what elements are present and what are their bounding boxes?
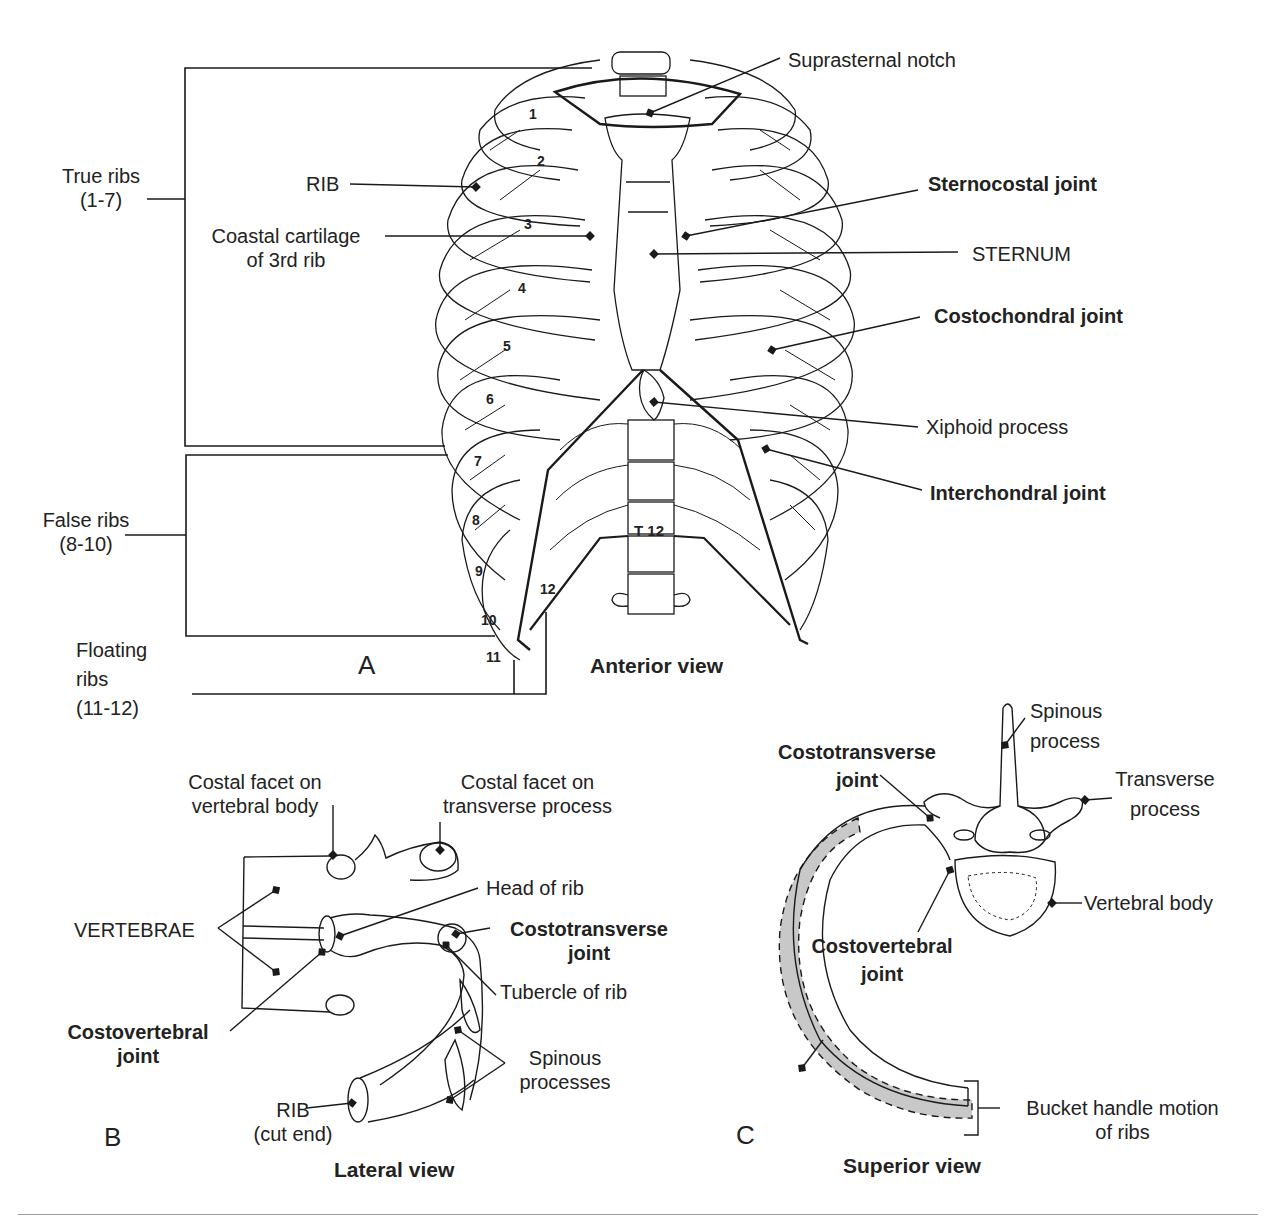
spinous-process-label: Spinous process — [1030, 696, 1102, 756]
coastal-cartilage-text: Coastal cartilage — [196, 224, 376, 248]
costovertebral-c-text-2: joint — [792, 960, 972, 988]
tubercle-of-rib-label: Tubercle of rib — [500, 980, 627, 1004]
floating-ribs-text: Floating — [76, 636, 147, 665]
xiphoid-process-label: Xiphoid process — [926, 415, 1068, 439]
rib-number-4: 4 — [518, 280, 526, 296]
rib-number-8: 8 — [472, 512, 480, 528]
bucket-handle-text: Bucket handle motion — [1005, 1096, 1240, 1120]
suprasternal-notch-label: Suprasternal notch — [788, 48, 956, 72]
costotransverse-joint-b-label: Costotransverse joint — [494, 917, 684, 965]
true-ribs-label: True ribs (1-7) — [56, 164, 146, 212]
costovertebral-joint-c-label: Costovertebral joint — [792, 932, 972, 988]
rib-cut-end-text-2: (cut end) — [238, 1122, 348, 1146]
costal-facet-body-text: Costal facet on — [170, 770, 340, 794]
rib-cut-end-label: RIB (cut end) — [238, 1098, 348, 1146]
rib-number-10: 10 — [481, 612, 497, 628]
rib-number-9: 9 — [475, 563, 483, 579]
rib-number-11: 11 — [486, 649, 501, 665]
costotransverse-b-text-2: joint — [494, 941, 684, 965]
true-ribs-range: (1-7) — [56, 188, 146, 212]
costotransverse-b-text: Costotransverse — [494, 917, 684, 941]
costovertebral-b-text-2: joint — [58, 1044, 218, 1068]
rib-label: RIB — [306, 172, 339, 196]
costochondral-joint-label: Costochondral joint — [934, 304, 1123, 328]
sternum-label: STERNUM — [972, 242, 1071, 266]
costovertebral-b-text: Costovertebral — [58, 1020, 218, 1044]
rib-number-12: 12 — [540, 581, 556, 597]
rib-group-brackets — [125, 68, 592, 694]
leader-lines-a — [350, 58, 958, 490]
superior-view-caption: Superior view — [843, 1154, 981, 1178]
costovertebral-joint-b-label: Costovertebral joint — [58, 1020, 218, 1068]
spinous-processes-label: Spinous processes — [500, 1046, 630, 1094]
costotransverse-c-text-2: joint — [762, 766, 952, 794]
panel-b-letter: B — [104, 1122, 121, 1153]
costovertebral-c-text: Costovertebral — [792, 932, 972, 960]
coastal-cartilage-text-2: of 3rd rib — [196, 248, 376, 272]
sternocostal-joint-label: Sternocostal joint — [928, 172, 1097, 196]
lateral-view-art — [242, 835, 482, 1122]
false-ribs-text: False ribs — [36, 508, 136, 532]
floating-ribs-range: (11-12) — [76, 694, 147, 723]
transverse-process-text: Transverse — [1100, 764, 1230, 794]
rib-number-7: 7 — [474, 453, 482, 469]
rib-number-3: 3 — [524, 216, 532, 232]
costal-facet-body-label: Costal facet on vertebral body — [170, 770, 340, 818]
panel-a-letter: A — [358, 650, 375, 681]
costal-facet-transverse-label: Costal facet on transverse process — [425, 770, 630, 818]
costal-facet-transverse-text-2: transverse process — [425, 794, 630, 818]
floating-ribs-label: Floating ribs (11-12) — [76, 636, 147, 723]
vertebral-body-label: Vertebral body — [1084, 891, 1213, 915]
coastal-cartilage-label: Coastal cartilage of 3rd rib — [196, 224, 376, 272]
panel-c-letter: C — [736, 1120, 755, 1151]
lateral-view-caption: Lateral view — [334, 1158, 454, 1182]
spinous-process-text-2: process — [1030, 726, 1102, 756]
bucket-handle-label: Bucket handle motion of ribs — [1005, 1096, 1240, 1144]
true-ribs-text: True ribs — [56, 164, 146, 188]
transverse-process-label: Transverse process — [1100, 764, 1230, 824]
anterior-view-caption: Anterior view — [590, 654, 723, 678]
rib-number-2: 2 — [537, 153, 545, 169]
false-ribs-range: (8-10) — [36, 532, 136, 556]
spinous-processes-text: Spinous — [500, 1046, 630, 1070]
rib-cage-anterior — [436, 52, 855, 660]
costotransverse-c-text: Costotransverse — [762, 738, 952, 766]
head-of-rib-label: Head of rib — [486, 876, 584, 900]
interchondral-joint-label: Interchondral joint — [930, 481, 1106, 505]
rib-number-5: 5 — [503, 338, 511, 354]
rib-number-6: 6 — [486, 391, 494, 407]
transverse-process-text-2: process — [1100, 794, 1230, 824]
rib-number-1: 1 — [529, 106, 537, 122]
costotransverse-joint-c-label: Costotransverse joint — [762, 738, 952, 794]
false-ribs-label: False ribs (8-10) — [36, 508, 136, 556]
vertebrae-label: VERTEBRAE — [74, 918, 195, 942]
spinous-processes-text-2: processes — [500, 1070, 630, 1094]
t12-vertebra-label: T 12 — [634, 522, 664, 539]
bottom-divider — [18, 1214, 1258, 1215]
bucket-handle-text-2: of ribs — [1005, 1120, 1240, 1144]
costal-facet-transverse-text: Costal facet on — [425, 770, 630, 794]
floating-ribs-text-2: ribs — [76, 665, 147, 694]
costal-facet-body-text-2: vertebral body — [170, 794, 340, 818]
spinous-process-text: Spinous — [1030, 696, 1102, 726]
rib-cut-end-text: RIB — [238, 1098, 348, 1122]
